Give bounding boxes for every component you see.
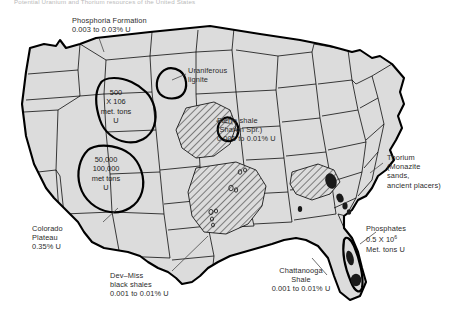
label-wyoming-reserve-line2: X 106 [88,97,144,106]
phosphate-blob-tn [298,206,302,212]
label-phosphates-line2-text: 0.5 X 10 [366,236,394,245]
label-plateau-reserve-line2: 100,000 [76,164,136,173]
label-phosphoria-line1: Phosphoria Formation [72,16,147,25]
label-wyoming-reserve-exponent: 6 [122,97,126,106]
map-svg [0,0,449,320]
label-thorium-line3: sands, [387,171,441,180]
label-colorado-plateau: Colorado Plateau 0.35% U [32,224,63,252]
label-wyoming-reserve-line1: 500 [88,88,144,97]
label-uraniferous-lignite-line1: Uraniferous [188,66,227,75]
label-plateau-reserve-line1: 50,000 [76,155,136,164]
label-thorium-line2: (Monazite [387,162,441,171]
label-wyoming-reserve-line4: U [88,116,144,125]
monazite-blob-ga [342,203,347,210]
label-thorium-line4: ancient placers) [387,181,441,190]
label-thorium: Thorium (Monazite sands, ancient placers… [387,153,441,190]
label-dev-miss-line1: Dev–Miss [110,271,169,280]
label-phosphoria: Phosphoria Formation 0.003 to 0.03% U [72,16,147,34]
label-phosphates: Phosphates 0.5 X 106 Met. tons U [366,224,406,254]
label-plateau-reserve-line3: met tons [76,174,136,183]
label-colorado-plateau-line1: Colorado [32,224,63,233]
label-dev-miss-line2: black shales [110,280,169,289]
uranium-thorium-resources-map: Potential Uranium and Thorium resources … [0,0,449,320]
label-pierre-shale-line2: (Sharon Spr.) [217,125,276,134]
label-dev-miss: Dev–Miss black shales 0.001 to 0.01% U [110,271,169,299]
label-phosphates-line3: Met. tons U [366,245,406,254]
label-chattanooga-line1: Chattanooga [249,266,353,275]
label-colorado-plateau-line2: Plateau [32,233,63,242]
label-phosphoria-line2: 0.003 to 0.03% U [72,25,147,34]
label-phosphates-exponent: 6 [394,234,397,240]
label-uraniferous-lignite-line2: lignite [188,75,227,84]
label-wyoming-reserve: 500 X 106 met. tons U [88,88,144,126]
label-chattanooga: Chattanooga Shale 0.001 to 0.01% U [249,266,353,294]
label-plateau-reserve: 50,000 100,000 met tons U [76,155,136,193]
label-thorium-line1: Thorium [387,153,441,162]
label-chattanooga-line3: 0.001 to 0.01% U [249,284,353,293]
label-pierre-shale-line1: Pierre shale [217,116,276,125]
label-plateau-reserve-line4: U [76,183,136,192]
monazite-blob-ga2 [347,209,351,215]
label-dev-miss-line3: 0.001 to 0.01% U [110,289,169,298]
label-pierre-shale-line3: 0.001 to 0.01% U [217,134,276,143]
label-wyoming-reserve-line3: met. tons [88,107,144,116]
label-uraniferous-lignite: Uraniferous lignite [188,66,227,84]
label-wyoming-reserve-line2-text: X 10 [106,97,121,106]
label-phosphates-line2: 0.5 X 106 [366,233,406,245]
label-pierre-shale: Pierre shale (Sharon Spr.) 0.001 to 0.01… [217,116,276,144]
label-colorado-plateau-line3: 0.35% U [32,242,63,251]
label-chattanooga-line2: Shale [249,275,353,284]
label-phosphates-line1: Phosphates [366,224,406,233]
